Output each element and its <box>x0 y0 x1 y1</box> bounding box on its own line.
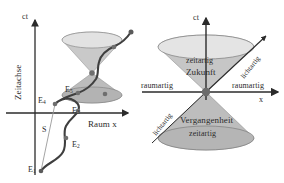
left-space-axis-label: Raum x <box>88 120 117 129</box>
left-future-cone <box>62 32 122 73</box>
label-spacelike-left: raumartig <box>141 82 173 90</box>
label-timelike-past: zeitartig <box>189 130 216 138</box>
segment-label-s: S <box>42 126 47 134</box>
cone-dot-lower-left <box>103 92 108 97</box>
cone-dot-upper-left <box>112 45 117 50</box>
event-label-e3: E3 <box>72 107 80 116</box>
event-label-e1-sub: 1 <box>33 168 36 174</box>
label-timelike-future: zeitartig <box>186 57 213 65</box>
left-time-axis-name-label: Zeitachse <box>14 65 23 100</box>
left-time-axis-tip-label: ct <box>22 13 28 21</box>
left-panel-group <box>6 20 134 175</box>
event-dot-e1 <box>39 169 44 174</box>
worldline-endpoint-left <box>129 30 134 35</box>
event-label-e3-sub: 3 <box>77 109 80 115</box>
event-label-e2-sub: 2 <box>77 143 80 149</box>
event-label-e2: E2 <box>72 141 80 150</box>
right-space-axis-tip-label: x <box>259 96 263 104</box>
event-dot-e2 <box>64 136 69 141</box>
minkowski-figure: ct Zeitachse Raum x E1 E2 E3 E4 E5 S ct … <box>0 0 284 183</box>
event-label-e5-sub: 5 <box>70 88 73 94</box>
event-label-e4: E4 <box>38 97 46 106</box>
event-label-e5: E5 <box>65 86 73 95</box>
origin-dot-right <box>202 88 210 96</box>
figure-canvas <box>0 0 284 183</box>
event-dot-e4 <box>53 102 58 107</box>
apex-dot-left <box>89 70 95 76</box>
label-future: Zukunft <box>186 68 216 77</box>
event-dot-e5 <box>76 91 81 96</box>
label-spacelike-right: raumartig <box>232 82 264 90</box>
label-past: Vergangenheit <box>180 116 233 125</box>
event-label-e1: E1 <box>28 166 36 175</box>
event-label-e4-sub: 4 <box>43 99 46 105</box>
right-time-axis-tip-label: ct <box>193 14 199 22</box>
